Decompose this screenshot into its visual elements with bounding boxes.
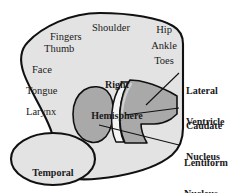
right-hemisphere-label-line1: Right <box>84 80 150 90</box>
right-hemisphere-label: Right Hemisphere <box>84 60 150 142</box>
homunculus-label-toes: Toes <box>147 56 181 67</box>
temporal-lobe-label-line1: Temporal <box>20 168 86 178</box>
lentiform-nucleus-label-line2: Nucleus <box>184 189 233 193</box>
brain-diagram-figure: Fingers Thumb Face Tongue Larynx Shoulde… <box>0 0 233 193</box>
lentiform-nucleus-label-line1: Lentiform <box>184 158 233 168</box>
homunculus-label-tongue: Tongue <box>26 86 57 97</box>
lateral-ventricle-label-line1: Lateral <box>186 86 233 96</box>
homunculus-label-shoulder: Shoulder <box>88 23 134 34</box>
right-hemisphere-label-line2: Hemisphere <box>84 111 150 121</box>
homunculus-label-thumb: Thumb <box>44 44 74 55</box>
homunculus-label-face: Face <box>32 65 52 76</box>
homunculus-label-hip: Hip <box>148 25 180 36</box>
homunculus-label-ankle: Ankle <box>145 41 183 52</box>
caudate-nucleus-label-line1: Caudate <box>186 121 233 131</box>
temporal-lobe-label: Temporal Lobe <box>20 148 86 193</box>
lentiform-nucleus-label: Lentiform Nucleus <box>184 138 233 193</box>
homunculus-label-fingers: Fingers <box>50 32 82 43</box>
homunculus-label-larynx: Larynx <box>26 107 56 118</box>
